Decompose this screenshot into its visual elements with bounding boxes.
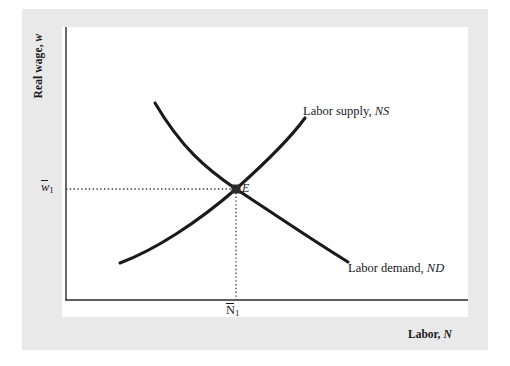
overbar (41, 180, 48, 181)
y-axis-title-text: Real wage, (32, 41, 44, 98)
tick-symbol: N (226, 303, 235, 317)
labor-market-equilibrium-figure: Real wage, w Labor, N w1 N1 Labor supply… (0, 0, 510, 366)
overbar-group: w (41, 180, 49, 195)
tick-subscript: 1 (49, 185, 54, 195)
overbar-group: N (226, 303, 235, 318)
labor-demand-text: Labor demand, (348, 261, 427, 275)
labor-supply-symbol: NS (375, 104, 390, 118)
equilibrium-point-label: E (242, 181, 249, 196)
equilibrium-point-marker (232, 185, 241, 194)
y-axis-title: Real wage, w (32, 11, 44, 121)
x-axis-tick-label-n1: N1 (226, 303, 240, 318)
labor-supply-curve (120, 118, 305, 263)
plot-graphics (0, 0, 510, 366)
tick-symbol: w (41, 180, 49, 194)
x-axis-title-symbol: N (443, 328, 451, 340)
x-axis-title-text: Labor, (408, 328, 443, 340)
labor-demand-annotation: Labor demand, ND (348, 261, 444, 276)
labor-demand-symbol: ND (427, 261, 444, 275)
labor-supply-text: Labor supply, (303, 104, 375, 118)
y-axis-title-symbol: w (32, 34, 44, 42)
tick-subscript: 1 (235, 308, 240, 318)
overbar (226, 303, 234, 304)
equilibrium-guidelines (66, 189, 236, 300)
labor-supply-annotation: Labor supply, NS (303, 104, 389, 119)
x-axis-title: Labor, N (408, 328, 452, 340)
y-axis-tick-label-w1: w1 (41, 180, 54, 195)
labor-demand-curve (155, 103, 348, 262)
